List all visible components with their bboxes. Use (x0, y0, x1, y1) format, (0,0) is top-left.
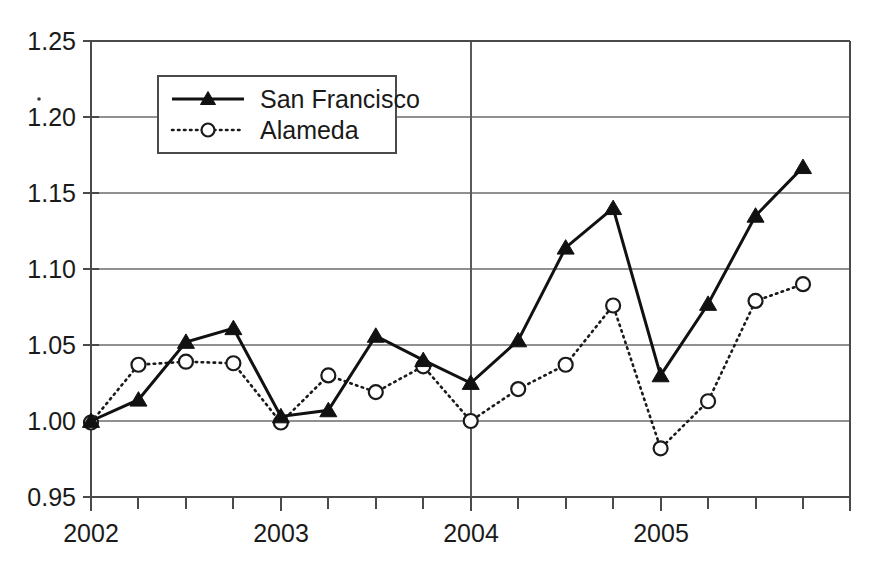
y-axis-tick-labels: 1.25 1.20 1.15 1.10 1.05 1.00 0.95 (27, 27, 76, 511)
scan-artifact-speck (37, 97, 41, 101)
data-point-marker (226, 356, 240, 370)
series-alameda (84, 277, 810, 455)
data-series-layer (83, 159, 812, 455)
data-point-marker (367, 328, 384, 342)
x-tick-label: 2005 (633, 519, 689, 547)
x-tick-label: 2004 (443, 519, 499, 547)
x-tick-marks (91, 497, 850, 511)
data-point-marker (369, 385, 383, 399)
series-line-alameda (91, 284, 803, 448)
series-line-san-francisco (91, 167, 803, 421)
x-tick-label: 2003 (253, 519, 309, 547)
chart-canvas: 1.25 1.20 1.15 1.10 1.05 1.00 0.95 2002 … (0, 0, 876, 567)
legend-label-alameda: Alameda (260, 116, 359, 144)
data-point-marker (701, 394, 715, 408)
x-tick-label: 2002 (63, 519, 119, 547)
data-point-marker (321, 368, 335, 382)
data-point-marker (796, 277, 810, 291)
x-axis-tick-labels: 2002 2003 2004 2005 (63, 519, 689, 547)
data-point-marker (749, 294, 763, 308)
data-point-marker (320, 402, 337, 416)
data-point-marker (510, 332, 527, 346)
data-point-marker (795, 159, 812, 173)
y-tick-label: 1.15 (27, 179, 76, 207)
legend-label-san-francisco: San Francisco (260, 85, 420, 113)
data-point-marker (415, 352, 432, 366)
line-chart-figure: 1.25 1.20 1.15 1.10 1.05 1.00 0.95 2002 … (0, 0, 876, 567)
y-tick-label: 1.20 (27, 103, 76, 131)
data-point-marker (654, 441, 668, 455)
data-point-marker (131, 358, 145, 372)
data-point-marker (225, 320, 242, 334)
data-point-marker (559, 358, 573, 372)
chart-legend: San Francisco Alameda (158, 76, 420, 153)
y-tick-label: 1.00 (27, 407, 76, 435)
data-point-marker (606, 298, 620, 312)
data-point-marker (179, 355, 193, 369)
data-point-marker (511, 382, 525, 396)
y-tick-label: 1.25 (27, 27, 76, 55)
series-san-francisco (83, 159, 812, 427)
y-tick-label: 1.05 (27, 331, 76, 359)
data-point-marker (464, 414, 478, 428)
y-tick-label: 1.10 (27, 255, 76, 283)
legend-marker-circle-icon (202, 124, 215, 137)
data-point-marker (652, 367, 669, 381)
y-tick-label: 0.95 (27, 483, 76, 511)
data-point-marker (700, 296, 717, 310)
data-point-marker (605, 200, 622, 214)
